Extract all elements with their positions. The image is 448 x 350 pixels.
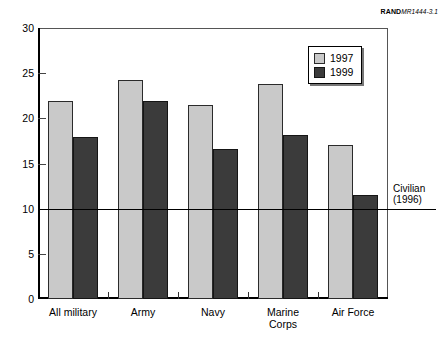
y-axis-tick-mark: [38, 118, 46, 119]
x-axis-group-separator: [178, 292, 179, 299]
bar: [73, 137, 98, 299]
chart-legend: 19971999: [308, 46, 362, 84]
y-axis-tick-label: 30: [22, 23, 34, 34]
legend-label: 1999: [330, 67, 353, 78]
chart-figure: RANDMR1444-3.1 051015202530 All military…: [0, 0, 448, 350]
legend-item: 1997: [314, 51, 353, 65]
bar: [213, 149, 238, 299]
source-tag-rand: RAND: [381, 8, 402, 15]
x-axis-group-separator: [108, 292, 109, 299]
bar: [328, 145, 353, 299]
x-axis-category-label: Air Force: [332, 306, 375, 318]
bar: [48, 101, 73, 299]
x-axis-group-separator: [248, 292, 249, 299]
legend-label: 1997: [330, 53, 353, 64]
legend-swatch: [314, 53, 325, 64]
x-axis-category-label: All military: [49, 306, 97, 318]
x-axis-category-label: Marine Corps: [267, 306, 299, 330]
y-axis-tick-mark: [38, 254, 46, 255]
y-axis-tick-mark: [38, 164, 46, 165]
y-axis-tick-label: 0: [28, 294, 34, 305]
x-axis-group-separator: [318, 292, 319, 299]
y-axis-tick-label: 15: [22, 158, 34, 169]
y-axis-tick-label: 25: [22, 68, 34, 79]
bar: [188, 105, 213, 299]
civilian-reference-line: [38, 209, 436, 210]
legend-item: 1999: [314, 65, 353, 79]
x-axis-category-label: Navy: [201, 306, 225, 318]
legend-swatch: [314, 67, 325, 78]
civilian-reference-label: Civilian(1996): [393, 183, 425, 206]
source-tag: RANDMR1444-3.1: [381, 8, 438, 16]
y-axis-tick-label: 5: [28, 249, 34, 260]
bar: [283, 135, 308, 299]
x-axis-category-label: Army: [131, 306, 156, 318]
y-axis-tick-label: 20: [22, 113, 34, 124]
y-axis-tick-mark: [38, 73, 46, 74]
bar: [143, 101, 168, 299]
source-tag-document: MR1444-3.1: [401, 8, 438, 15]
bar: [118, 80, 143, 299]
bar: [258, 84, 283, 299]
y-axis-tick-label: 10: [22, 203, 34, 214]
bar: [353, 195, 378, 299]
